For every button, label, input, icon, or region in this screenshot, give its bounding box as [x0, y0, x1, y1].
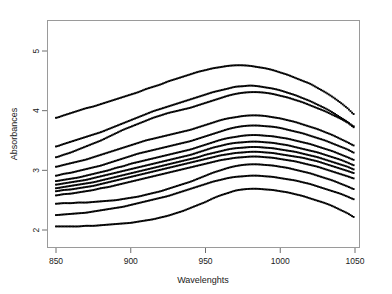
y-tick-label: 2 [31, 227, 41, 232]
spectrum-curve [55, 64, 355, 118]
spectrum-curve [55, 85, 355, 148]
x-tick-label: 1050 [346, 256, 365, 266]
x-tick-label: 900 [124, 256, 138, 266]
x-tick-label: 1000 [271, 256, 290, 266]
y-axis-title: Absorbances [9, 107, 19, 160]
y-axis-tick-labels: 2345 [31, 48, 41, 232]
plot-canvas: 85090095010001050 2345 Wavelenghts Absor… [0, 0, 392, 294]
y-axis-ticks [42, 51, 47, 230]
y-tick-label: 3 [31, 168, 41, 173]
spectrum-curve [55, 151, 355, 192]
spectra-plot-figure: 85090095010001050 2345 Wavelenghts Absor… [0, 0, 392, 294]
y-tick-label: 4 [31, 108, 41, 113]
y-tick-label: 5 [31, 48, 41, 53]
spectrum-curve [55, 146, 355, 189]
x-axis-title: Wavelenghts [177, 275, 229, 285]
x-axis-tick-labels: 85090095010001050 [49, 256, 365, 266]
x-tick-label: 950 [198, 256, 212, 266]
spectrum-curve [55, 188, 355, 228]
x-tick-label: 850 [49, 256, 63, 266]
x-axis-ticks [56, 248, 355, 253]
data-series-group [55, 64, 355, 227]
